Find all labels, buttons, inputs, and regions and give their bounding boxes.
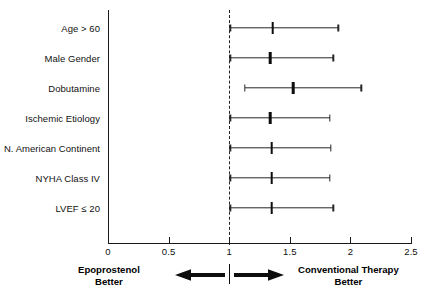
confidence-interval-line xyxy=(230,117,329,118)
conventional-therapy-better-line1: Conventional Therapy xyxy=(298,264,399,276)
point-estimate-marker xyxy=(269,52,272,64)
confidence-interval-line xyxy=(230,57,333,58)
confidence-interval-line xyxy=(230,177,329,178)
row-label: LVEF ≤ 20 xyxy=(55,203,100,214)
forest-plot-figure: 00.511.522.5 Age > 60Male GenderDobutami… xyxy=(0,0,426,297)
confidence-interval-line xyxy=(245,87,361,88)
point-estimate-marker xyxy=(270,202,273,214)
ci-lower-cap xyxy=(230,55,231,62)
ci-upper-cap xyxy=(361,85,362,92)
ci-upper-cap xyxy=(333,55,334,62)
x-axis-tick xyxy=(229,237,230,243)
point-estimate-marker xyxy=(270,172,273,184)
y-axis-line xyxy=(108,10,109,244)
x-axis-tick xyxy=(169,237,170,243)
x-axis-tick-label: 0.5 xyxy=(162,246,176,257)
point-estimate-marker xyxy=(272,22,275,34)
row-label: Ischemic Etiology xyxy=(25,113,100,124)
row-label: N. American Continent xyxy=(4,143,100,154)
x-axis-tick-label: 2.5 xyxy=(404,246,418,257)
epoprostenol-better-line1: Epoprostenol xyxy=(78,264,140,276)
ci-lower-cap xyxy=(244,85,245,92)
ci-lower-cap xyxy=(230,25,231,32)
x-axis-tick-label: 2 xyxy=(348,246,353,257)
confidence-interval-line xyxy=(230,27,338,28)
conventional-therapy-better-annotation: Conventional Therapy Better xyxy=(298,264,399,287)
x-axis-tick-label: 1 xyxy=(226,246,231,257)
epoprostenol-better-line2: Better xyxy=(78,276,140,288)
x-axis-tick-label: 1.5 xyxy=(283,246,297,257)
x-axis-tick xyxy=(411,237,412,243)
conventional-therapy-better-line2: Better xyxy=(298,276,399,288)
point-estimate-marker xyxy=(292,82,295,94)
ci-lower-cap xyxy=(230,115,231,122)
confidence-interval-line xyxy=(230,147,331,148)
x-axis-tick xyxy=(108,237,109,243)
row-label: Male Gender xyxy=(45,53,100,64)
ci-upper-cap xyxy=(329,175,330,182)
x-axis-tick-label: 0 xyxy=(105,246,110,257)
row-label: NYHA Class IV xyxy=(35,173,100,184)
point-estimate-marker xyxy=(270,142,273,154)
x-axis-tick xyxy=(350,237,351,243)
ci-lower-cap xyxy=(230,205,231,212)
arrow-divider-bar xyxy=(229,264,230,284)
x-axis-tick xyxy=(290,237,291,243)
epoprostenol-better-annotation: Epoprostenol Better xyxy=(78,264,140,287)
right-arrow-icon xyxy=(234,268,284,286)
ci-upper-cap xyxy=(330,145,331,152)
row-label: Age > 60 xyxy=(61,23,100,34)
row-label: Dobutamine xyxy=(48,83,100,94)
point-estimate-marker xyxy=(269,112,272,124)
confidence-interval-line xyxy=(230,207,333,208)
ci-upper-cap xyxy=(329,115,330,122)
x-axis-line xyxy=(108,243,412,244)
ci-lower-cap xyxy=(230,175,231,182)
ci-lower-cap xyxy=(230,145,231,152)
left-arrow-icon xyxy=(175,268,225,286)
ci-upper-cap xyxy=(338,25,339,32)
ci-upper-cap xyxy=(333,205,334,212)
plot-area: 00.511.522.5 Age > 60Male GenderDobutami… xyxy=(0,0,426,297)
